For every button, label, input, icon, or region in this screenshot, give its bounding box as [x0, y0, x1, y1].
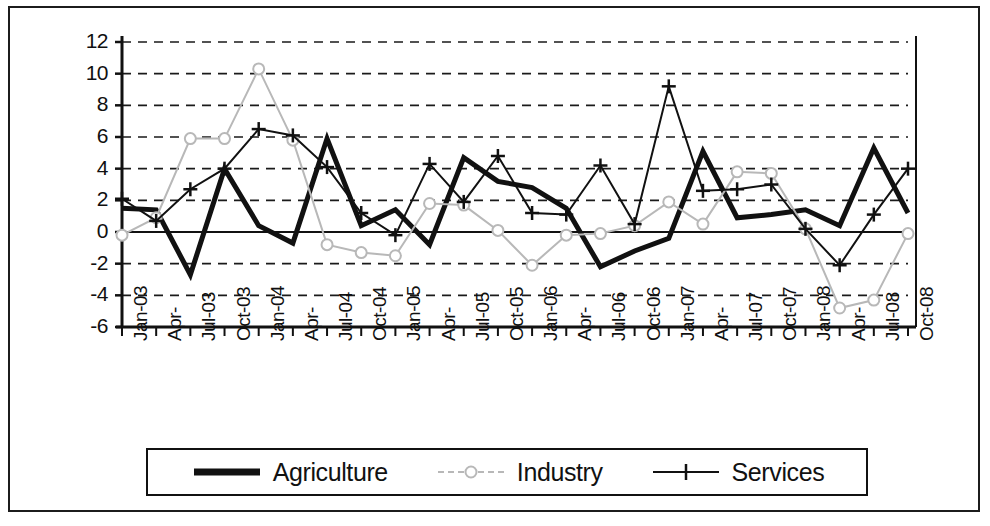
legend-label-services: Services	[732, 458, 825, 487]
data-point-marker	[492, 225, 503, 236]
x-tick-label: Apr-	[164, 307, 186, 341]
data-point-marker	[527, 260, 538, 271]
x-tick-label: Oct-03	[233, 287, 255, 341]
x-tick-label: Oct-05	[506, 287, 528, 341]
data-point-marker	[117, 230, 128, 241]
x-tick-label: Jul-07	[745, 292, 767, 341]
data-point-marker	[697, 219, 708, 230]
data-point-marker	[766, 168, 777, 179]
x-tick-label: Jan-04	[267, 286, 289, 341]
x-tick-label: Jul-03	[198, 292, 220, 341]
x-tick-label: Oct-08	[916, 287, 938, 341]
data-point-marker	[868, 295, 879, 306]
data-point-marker	[219, 133, 230, 144]
y-tick-label: -2	[66, 251, 108, 275]
legend-item-industry[interactable]: Industry	[434, 458, 603, 487]
y-tick-label: -6	[66, 314, 108, 338]
chart-legend: Agriculture Industry Services	[146, 448, 868, 496]
x-tick-label: Jul-04	[335, 292, 357, 341]
series-services	[115, 79, 915, 272]
series-line	[122, 139, 908, 275]
data-point-marker	[561, 230, 572, 241]
data-point-marker	[253, 63, 264, 74]
legend-item-agriculture[interactable]: Agriculture	[190, 458, 388, 487]
data-point-marker	[356, 247, 367, 258]
y-tick-label: 0	[66, 219, 108, 243]
series-line	[122, 86, 908, 265]
legend-label-industry: Industry	[517, 458, 603, 487]
x-tick-label: Apr-	[301, 307, 323, 341]
data-point-marker	[424, 198, 435, 209]
industry-line-circle-icon	[434, 461, 508, 483]
y-tick-label: 10	[66, 61, 108, 85]
data-point-marker	[185, 133, 196, 144]
data-point-marker	[390, 250, 401, 261]
x-tick-label: Jan-06	[540, 286, 562, 341]
x-tick-label: Oct-04	[369, 287, 391, 341]
services-line-plus-icon	[649, 461, 723, 483]
x-tick-label: Jul-05	[472, 292, 494, 341]
data-point-marker	[903, 228, 914, 239]
x-tick-label: Jul-08	[882, 292, 904, 341]
x-tick-label: Apr-	[438, 307, 460, 341]
y-tick-label: 6	[66, 124, 108, 148]
x-tick-label: Oct-07	[779, 287, 801, 341]
x-tick-label: Jan-08	[813, 286, 835, 341]
y-tick-label: 2	[66, 187, 108, 211]
y-tick-label: -4	[66, 282, 108, 306]
x-tick-label: Oct-06	[643, 287, 665, 341]
data-point-marker	[834, 303, 845, 314]
x-tick-label: Jan-07	[677, 286, 699, 341]
x-tick-label: Apr-	[848, 307, 870, 341]
data-point-marker	[732, 166, 743, 177]
y-tick-label: 4	[66, 156, 108, 180]
y-tick-label: 8	[66, 92, 108, 116]
x-tick-label: Apr-	[574, 307, 596, 341]
x-tick-label: Jul-06	[608, 292, 630, 341]
series-agriculture	[122, 139, 908, 275]
x-tick-label: Jan-05	[403, 286, 425, 341]
agriculture-line-icon	[190, 461, 264, 483]
y-tick-label: 12	[66, 29, 108, 53]
legend-item-services[interactable]: Services	[649, 458, 825, 487]
legend-label-agriculture: Agriculture	[273, 458, 388, 487]
data-point-marker	[595, 228, 606, 239]
data-point-marker	[322, 239, 333, 250]
data-point-marker	[663, 196, 674, 207]
x-tick-label: Jan-03	[130, 286, 152, 341]
x-tick-label: Apr-	[711, 307, 733, 341]
line-chart: 121086420-2-4-6 Jan-03Apr-Jul-03Oct-03Ja…	[0, 0, 990, 526]
